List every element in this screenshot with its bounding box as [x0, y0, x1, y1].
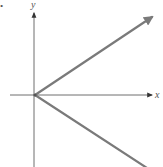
item-marker: •	[0, 1, 3, 11]
coordinate-diagram: • x y	[0, 0, 163, 167]
x-axis-label: x	[154, 89, 160, 100]
origin-point	[33, 93, 36, 96]
y-axis-label: y	[30, 0, 36, 10]
lower-ray	[35, 95, 147, 167]
upper-ray	[35, 17, 152, 95]
